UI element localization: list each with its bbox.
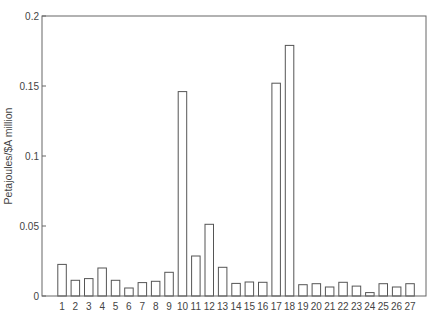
bar-chart: 00.050.10.150.2 123456789101112131415161… [0, 0, 437, 321]
x-tick-label: 15 [244, 301, 256, 312]
bar-1 [58, 264, 67, 296]
bar-7 [138, 283, 147, 296]
bar-26 [392, 287, 401, 296]
x-tick-label: 16 [257, 301, 269, 312]
bar-19 [299, 285, 308, 296]
x-tick-label: 25 [378, 301, 390, 312]
bar-12 [205, 224, 214, 296]
bar-18 [285, 45, 294, 296]
y-tick-label: 0 [33, 291, 39, 302]
x-tick-label: 1 [59, 301, 65, 312]
bar-20 [312, 284, 321, 296]
y-axis-label: Petajoules/$A million [2, 107, 14, 204]
bar-10 [178, 92, 187, 296]
bar-8 [151, 281, 160, 296]
x-tick-label: 21 [324, 301, 336, 312]
bar-15 [245, 282, 254, 296]
x-tick-label: 6 [126, 301, 132, 312]
bar-2 [71, 280, 80, 296]
bar-9 [165, 272, 174, 296]
x-tick-label: 3 [86, 301, 92, 312]
x-tick-label: 23 [351, 301, 363, 312]
x-tick-label: 20 [311, 301, 323, 312]
x-tick-label: 5 [113, 301, 119, 312]
bar-21 [325, 287, 334, 296]
x-tick-label: 19 [297, 301, 309, 312]
bar-13 [218, 267, 227, 296]
x-tick-label: 17 [271, 301, 283, 312]
x-tick-label: 22 [338, 301, 350, 312]
x-tick-label: 2 [73, 301, 79, 312]
x-tick-label: 27 [404, 301, 416, 312]
x-tick-label: 7 [140, 301, 146, 312]
bar-27 [406, 284, 415, 296]
x-tick-label: 12 [204, 301, 216, 312]
bar-3 [85, 279, 94, 296]
x-tick-label: 10 [177, 301, 189, 312]
y-tick-label: 0.15 [20, 81, 40, 92]
bar-17 [272, 83, 281, 296]
bar-22 [339, 282, 348, 296]
bar-25 [379, 284, 388, 296]
bar-4 [98, 268, 107, 296]
x-tick-label: 9 [166, 301, 172, 312]
y-tick-label: 0.2 [25, 11, 39, 22]
bar-11 [192, 256, 201, 296]
x-tick-label: 8 [153, 301, 159, 312]
x-tick-label: 18 [284, 301, 296, 312]
x-tick-label: 13 [217, 301, 229, 312]
bar-23 [352, 286, 361, 296]
x-tick-label: 11 [191, 301, 202, 312]
bar-24 [366, 293, 375, 296]
bar-16 [259, 282, 268, 296]
bars-group [58, 45, 415, 296]
bar-5 [111, 280, 120, 296]
x-tick-label: 14 [230, 301, 242, 312]
x-axis-ticks: 1234567891011121314151617181920212223242… [59, 301, 416, 312]
x-tick-label: 4 [99, 301, 105, 312]
y-tick-label: 0.1 [25, 151, 39, 162]
bar-14 [232, 283, 241, 296]
x-tick-label: 24 [364, 301, 376, 312]
bar-6 [125, 288, 134, 296]
y-tick-label: 0.05 [20, 221, 40, 232]
x-tick-label: 26 [391, 301, 403, 312]
plot-frame [42, 16, 426, 296]
